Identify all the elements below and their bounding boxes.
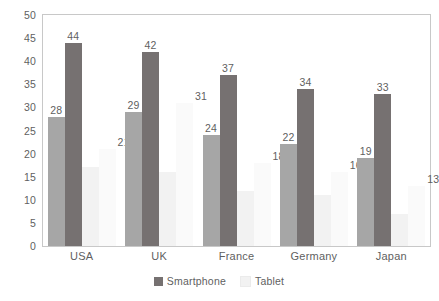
bar[interactable]: 16 [331,172,348,246]
bar-slot: 34 [297,15,314,246]
legend-label: Tablet [255,275,284,287]
bar[interactable]: 13 [408,186,425,246]
bar[interactable]: 44 [65,43,82,246]
bar-value-label: 28 [50,104,62,116]
bar-slot: 24 [203,15,220,246]
plot-area: 284417212942163124371218223411161933713 [43,15,430,246]
bar-slot: 42 [142,15,159,246]
y-tick-label: 45 [24,32,36,44]
y-tick-label: 40 [24,55,36,67]
x-axis-label: Japan [353,250,430,270]
x-axis-label: France [198,250,275,270]
bar[interactable]: 33 [374,94,391,246]
bar-slot: 16 [159,15,176,246]
bar-value-label: 33 [377,81,389,93]
x-axis-label: USA [43,250,120,270]
bar-value-label: 22 [282,131,294,143]
bar-value-label: 13 [427,173,439,185]
bar[interactable]: 7 [391,214,408,246]
legend-swatch-icon [154,277,163,286]
legend-item[interactable]: Tablet [240,275,284,287]
legend-label: Smartphone [167,275,226,287]
bar-group: 1933713 [353,15,430,246]
y-tick-label: 0 [30,240,36,252]
bar-slot: 16 [331,15,348,246]
bar-slot: 37 [220,15,237,246]
bar[interactable]: 31 [176,103,193,246]
bar-slot: 31 [176,15,193,246]
y-tick-label: 15 [24,171,36,183]
y-tick-label: 35 [24,78,36,90]
bar-value-label: 29 [128,99,140,111]
bar[interactable]: 29 [125,112,142,246]
bar-value-label: 42 [145,39,157,51]
bar[interactable]: 11 [314,195,331,246]
bar[interactable]: 28 [48,117,65,246]
bar-value-label: 44 [67,30,79,42]
y-tick-label: 25 [24,125,36,137]
y-axis: 05101520253035404550 [0,14,40,247]
legend-item[interactable]: Smartphone [154,275,226,287]
bar-value-label: 37 [222,62,234,74]
bar-slot: 18 [254,15,271,246]
bar-slot: 28 [48,15,65,246]
bar[interactable]: 24 [203,135,220,246]
bar-groups: 284417212942163124371218223411161933713 [43,15,430,246]
bar-value-label: 34 [299,76,311,88]
legend-swatch-icon [240,276,251,287]
bar[interactable]: 16 [159,172,176,246]
bar-group: 24371218 [198,15,275,246]
bar[interactable]: 21 [99,149,116,246]
bar-slot: 21 [99,15,116,246]
bar[interactable]: 17 [82,167,99,246]
bar-group: 29421631 [120,15,197,246]
bar[interactable]: 18 [254,163,271,246]
y-tick-label: 5 [30,217,36,229]
y-tick-label: 20 [24,148,36,160]
bar-slot: 11 [314,15,331,246]
y-tick-label: 10 [24,194,36,206]
bar-value-label: 19 [360,145,372,157]
bar-slot: 7 [391,15,408,246]
bar-slot: 13 [408,15,425,246]
bar[interactable]: 19 [357,158,374,246]
bar-slot: 44 [65,15,82,246]
bar-slot: 17 [82,15,99,246]
bar[interactable]: 12 [237,191,254,246]
x-axis: USAUKFranceGermanyJapan [43,250,430,270]
bar[interactable]: 22 [280,144,297,246]
bar-group: 22341116 [275,15,352,246]
bar-value-label: 24 [205,122,217,134]
y-tick-label: 30 [24,101,36,113]
bar-slot: 12 [237,15,254,246]
bar-slot: 19 [357,15,374,246]
x-axis-label: UK [120,250,197,270]
y-tick-label: 50 [24,9,36,21]
bar[interactable]: 37 [220,75,237,246]
bar-slot: 22 [280,15,297,246]
bar-group: 28441721 [43,15,120,246]
chart-legend: SmartphoneTablet [0,275,438,287]
bar-slot: 33 [374,15,391,246]
bar-slot: 29 [125,15,142,246]
x-axis-label: Germany [275,250,352,270]
bar[interactable]: 34 [297,89,314,246]
bar[interactable]: 42 [142,52,159,246]
